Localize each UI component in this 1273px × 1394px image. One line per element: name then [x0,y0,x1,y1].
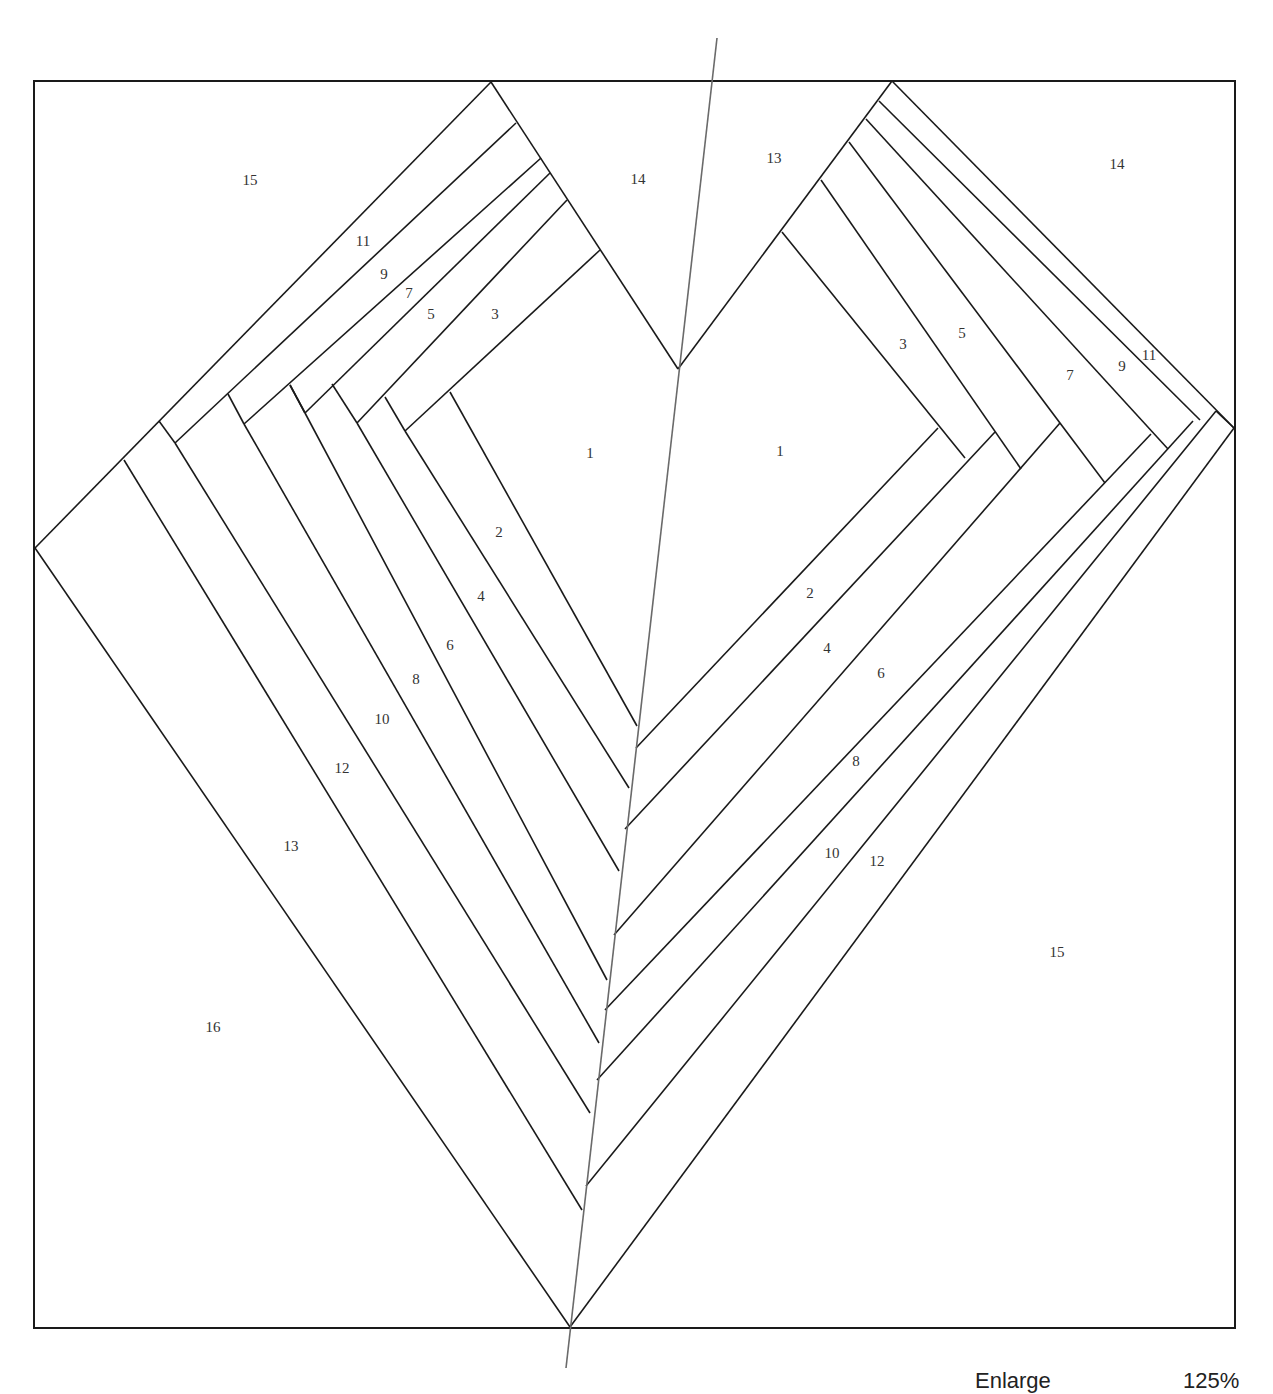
left-half-lines [35,82,678,1327]
section-label: 1 [586,445,594,461]
section-label: 6 [877,665,885,681]
section-label: 9 [1118,358,1126,374]
section-label: 15 [243,172,258,188]
enlarge-instruction: Enlarge 125% [975,1368,1051,1394]
section-label: 1 [776,443,784,459]
section-label: 16 [206,1019,222,1035]
enlarge-label: Enlarge [975,1368,1051,1393]
center-seam-line [566,38,717,1368]
section-label: 3 [491,306,499,322]
left-section-labels: 15 14 11 9 7 5 3 1 2 4 6 8 10 12 13 16 [206,171,647,1035]
section-label: 14 [631,171,647,187]
section-label: 2 [495,524,503,540]
section-label: 15 [1050,944,1065,960]
section-label: 12 [870,853,885,869]
section-label: 6 [446,637,454,653]
section-label: 10 [825,845,840,861]
section-label: 13 [284,838,299,854]
section-label: 9 [380,266,388,282]
section-label: 5 [427,306,435,322]
block-frame [34,81,1235,1328]
enlarge-percentage: 125% [1183,1368,1239,1394]
section-label: 8 [412,671,420,687]
section-label: 14 [1110,156,1126,172]
section-label: 7 [1066,367,1074,383]
section-label: 2 [806,585,814,601]
section-label: 4 [477,588,485,604]
section-label: 4 [823,640,831,656]
right-half-lines [570,81,1234,1327]
section-label: 3 [899,336,907,352]
section-label: 11 [1142,347,1156,363]
section-label: 7 [405,285,413,301]
section-label: 10 [375,711,390,727]
section-label: 13 [767,150,782,166]
section-label: 12 [335,760,350,776]
section-label: 11 [356,233,370,249]
section-label: 8 [852,753,860,769]
section-label: 5 [958,325,966,341]
